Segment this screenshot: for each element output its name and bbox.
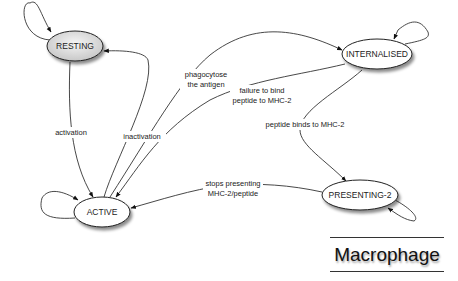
diagram-title: Macrophage — [334, 244, 440, 266]
node-label-active: ACTIVE — [87, 207, 118, 217]
node-presenting2[interactable]: PRESENTING-2 — [322, 180, 398, 210]
edge-resting-self-loop — [24, 2, 51, 40]
edge-label-peptide-binds: peptide binds to MHC-2 — [266, 120, 345, 129]
edge-label-failure-line1: failure to bind — [239, 86, 284, 95]
edge-label-stops-line1: stops presenting — [205, 179, 260, 188]
node-resting[interactable]: RESTING — [47, 31, 103, 61]
edge-label-stops-line2: MHC-2/peptide — [208, 189, 258, 198]
node-internalised[interactable]: INTERNALISED — [342, 39, 412, 69]
edge-label-failure-line2: peptide to MHC-2 — [233, 96, 292, 105]
edge-active-to-resting — [104, 51, 149, 197]
edge-labels: activation inactivation phagocytose the … — [50, 69, 347, 200]
node-label-resting: RESTING — [56, 41, 94, 51]
node-label-presenting2: PRESENTING-2 — [329, 190, 392, 200]
edge-internalised-self-loop — [394, 22, 428, 44]
edge-label-activation: activation — [55, 128, 87, 137]
diagram-title-box: Macrophage — [330, 237, 444, 272]
node-label-internalised: INTERNALISED — [346, 49, 408, 59]
edge-label-phagocytose-line1: phagocytose — [185, 70, 228, 79]
edge-active-self-loop — [41, 191, 78, 218]
edge-label-inactivation: inactivation — [123, 132, 161, 141]
edge-label-phagocytose-line2: the antigen — [187, 80, 224, 89]
node-active[interactable]: ACTIVE — [74, 197, 130, 227]
